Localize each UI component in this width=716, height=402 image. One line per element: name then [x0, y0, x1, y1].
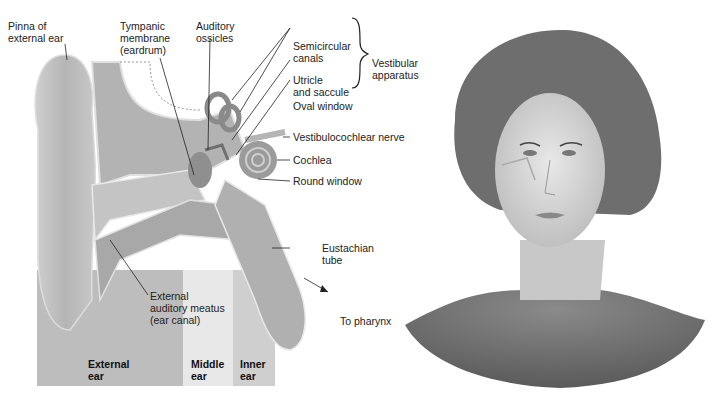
label-vestibulocochlear-nerve: Vestibulocochlear nerve — [293, 131, 405, 143]
label-semicircular-canals: Semicircularcanals — [293, 40, 351, 64]
label-tympanic-membrane: Tympanicmembrane(eardrum) — [120, 20, 170, 56]
label-auditory-ossicles: Auditoryossicles — [196, 20, 235, 44]
label-pinna: Pinna ofexternal ear — [8, 20, 63, 44]
zone-label-middle-ear: Middleear — [191, 358, 224, 382]
zone-label-external-ear: Externalear — [88, 358, 129, 382]
pinna-shape — [35, 55, 95, 330]
head-illustration — [405, 30, 705, 388]
label-cochlea: Cochlea — [293, 154, 332, 166]
zone-label-inner-ear: Innerear — [240, 358, 266, 382]
label-vestibular-apparatus: Vestibularapparatus — [372, 57, 419, 81]
label-to-pharynx: To pharynx — [340, 315, 391, 327]
anatomy-illustration — [0, 0, 716, 402]
cochlea-shape — [239, 141, 277, 179]
label-oval-window: Oval window — [293, 100, 353, 112]
label-utricle-saccule: Utricleand saccule — [293, 74, 349, 98]
label-eustachian-tube: Eustachiantube — [322, 242, 374, 266]
label-external-auditory-meatus: Externalauditory meatus(ear canal) — [150, 290, 225, 326]
label-round-window: Round window — [293, 175, 362, 187]
shirt-shape — [405, 290, 705, 388]
face-shape — [495, 93, 605, 247]
